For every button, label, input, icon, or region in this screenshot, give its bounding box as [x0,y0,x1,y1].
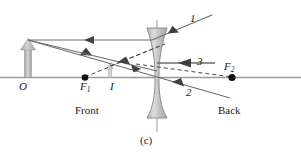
label-focal-front: F1 [80,80,90,94]
label-focal-back-letter: F [224,60,231,72]
label-ray-1: 1 [190,12,196,24]
focal-point-back-dot [228,74,235,81]
refracted-ray-2 [157,77,230,98]
incident-ray-parallel [28,36,152,44]
label-ray-3: 3 [197,55,203,67]
label-ray-2: 2 [186,86,192,98]
label-object-O: O [19,80,27,92]
label-back-side: Back [218,104,241,116]
figure-caption: (c) [140,134,152,146]
incident-ray-center [28,40,157,77]
refracted-ray-3 [157,59,215,68]
label-focal-front-subscript: 1 [87,85,91,94]
diverging-lens [147,28,167,118]
object-arrow [21,39,36,78]
virtual-extension-to-f2 [131,64,232,77]
label-front-side: Front [75,104,99,116]
label-image-I: I [110,80,114,92]
label-focal-back-subscript: 2 [231,65,235,74]
label-focal-back: F2 [224,60,234,74]
label-focal-front-letter: F [80,80,87,92]
